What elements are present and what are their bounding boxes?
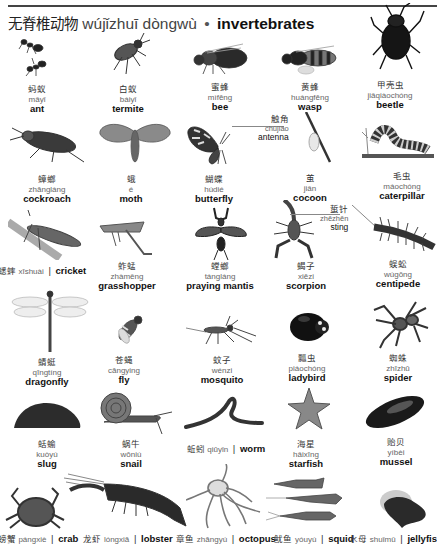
label-separator: | — [400, 533, 402, 544]
label-zh: 苍蝇 — [108, 356, 140, 366]
callout-sting: 蜇针 zhēzhēn sting — [320, 205, 348, 233]
label-zh: 蝴蝶 — [195, 175, 233, 185]
label-caterpillar: 毛虫 máochóng caterpillar — [379, 172, 424, 202]
label-zh: 甲壳虫 — [368, 81, 413, 91]
label-en: scorpion — [286, 281, 326, 292]
label-beetle: 甲壳虫 jiǎqiàochóng beetle — [368, 81, 413, 111]
title-chinese: 无脊椎动物 — [8, 16, 78, 32]
label-cricket: 蟋蟀 xīshuài | cricket — [0, 264, 86, 276]
label-zh: 蜜蜂 — [208, 83, 232, 93]
label-en: dragonfly — [25, 377, 68, 388]
wasp-image — [276, 40, 341, 78]
label-en: grasshopper — [98, 281, 156, 292]
mussel-image — [362, 393, 428, 431]
label-en: slug — [36, 459, 57, 470]
beetle-image — [368, 3, 426, 75]
label-en: butterfly — [195, 194, 233, 205]
label-en: jellyfish — [407, 533, 437, 544]
label-en: moth — [119, 194, 142, 205]
label-starfish: 海星 hǎixīng starfish — [289, 440, 323, 470]
label-jellyfish: 水母 shuǐmǔ | jellyfish — [349, 532, 437, 544]
centipede-image — [352, 205, 437, 259]
label-zh: 茧 — [293, 174, 327, 184]
label-zh: 水母 — [349, 534, 367, 544]
label-zh: 瓢虫 — [289, 354, 326, 364]
caterpillar-image — [360, 118, 436, 162]
label-en: crab — [58, 533, 78, 544]
snail-image — [96, 388, 176, 436]
cocoon-image — [296, 112, 336, 166]
label-pinyin: yóuyú — [295, 535, 316, 544]
label-centipede: 蜈蚣 wúgōng centipede — [376, 260, 420, 290]
label-crab: 螃蟹 pángxiè | crab — [0, 532, 78, 544]
mantis-image — [194, 206, 248, 262]
label-zh: 鱿鱼 — [274, 534, 292, 544]
label-en: fly — [108, 375, 140, 386]
label-en: beetle — [368, 100, 413, 111]
label-zh: 螃蟹 — [0, 534, 16, 544]
label-squid: 鱿鱼 yóuyú | squid — [274, 532, 353, 544]
label-moth: 蛾 é moth — [119, 175, 142, 205]
spider-image — [370, 298, 430, 350]
label-scorpion: 蝎子 xiēzi scorpion — [286, 262, 326, 292]
label-pinyin: lóngxiā — [104, 535, 129, 544]
starfish-image — [286, 386, 332, 432]
moth-image — [96, 118, 174, 164]
slug-image — [12, 396, 82, 434]
label-zh: 蜈蚣 — [376, 260, 420, 270]
cockroach-image — [10, 122, 86, 164]
crab-image — [4, 484, 66, 530]
label-mussel: 贻贝 yíbèi mussel — [380, 438, 413, 468]
label-en: snail — [120, 459, 142, 470]
label-zh: 蟋蟀 — [0, 266, 16, 276]
label-separator: | — [51, 533, 53, 544]
label-grasshopper: 蚱蜢 zhàměng grasshopper — [98, 262, 156, 292]
label-zh: 蝎子 — [286, 262, 326, 272]
label-en: praying mantis — [186, 281, 254, 292]
callout-en: antenna — [258, 133, 289, 143]
title-english: invertebrates — [217, 15, 314, 32]
label-zh: 黄蜂 — [291, 83, 329, 93]
label-en: mussel — [380, 457, 413, 468]
label-zh: 蟑螂 — [23, 175, 71, 185]
callout-en: sting — [320, 223, 348, 233]
label-zh: 蚂蚁 — [28, 85, 46, 95]
label-snail: 蜗牛 wōniú snail — [120, 440, 142, 470]
label-separator: | — [48, 265, 50, 276]
label-ladybird: 瓢虫 piáochóng ladybird — [289, 354, 326, 384]
label-en: caterpillar — [379, 191, 424, 202]
label-zh: 蚱蜢 — [98, 262, 156, 272]
label-en: cockroach — [23, 194, 71, 205]
label-pinyin: pángxiè — [18, 535, 46, 544]
label-zh: 螳螂 — [186, 262, 254, 272]
label-en: mosquito — [201, 375, 244, 386]
label-cockroach: 蟑螂 zhāngláng cockroach — [23, 175, 71, 205]
label-pinyin: shuǐmǔ — [370, 535, 396, 544]
label-zh: 蛾 — [119, 175, 142, 185]
label-termite: 白蚁 báiyǐ termite — [112, 85, 144, 115]
label-slug: 蛞蝓 kuòyú slug — [36, 440, 57, 470]
label-zh: 海星 — [289, 440, 323, 450]
fly-image — [110, 306, 150, 346]
label-en: cricket — [56, 265, 87, 276]
label-zh: 白蚁 — [112, 85, 144, 95]
octopus-image — [186, 464, 262, 530]
label-zh: 蚊子 — [201, 356, 244, 366]
bee-image — [183, 36, 253, 78]
label-zh: 章鱼 — [176, 534, 194, 544]
cricket-image — [8, 210, 82, 260]
scorpion-image — [272, 200, 316, 262]
label-zh: 蜻蜓 — [25, 358, 68, 368]
label-zh: 蜗牛 — [120, 440, 142, 450]
label-zh: 龙虾 — [83, 534, 101, 544]
mosquito-image — [186, 312, 258, 346]
label-separator: | — [134, 533, 136, 544]
grasshopper-image — [96, 220, 158, 258]
label-separator: | — [321, 533, 323, 544]
label-mosquito: 蚊子 wénzi mosquito — [201, 356, 244, 386]
label-spider: 蜘蛛 zhīzhū spider — [384, 354, 413, 384]
label-en: bee — [208, 102, 232, 113]
label-worm: 蚯蚓 qiūyǐn | worm — [187, 442, 266, 454]
label-zh: 蛞蝓 — [36, 440, 57, 450]
label-pinyin: xīshuài — [18, 267, 43, 276]
